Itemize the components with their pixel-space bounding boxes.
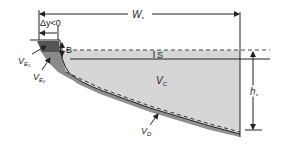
width-label: W* [132,9,144,22]
h-label: h* [250,86,259,99]
ve2-label: VE2 [33,72,46,84]
s-label: S [157,50,163,60]
region-vc [60,50,240,135]
ve2-leader [42,58,50,70]
diagram-canvas: W* Δy<0 B S h* VE1 VE2 VC VD [0,0,283,150]
b-label: B [66,45,72,55]
delta-y-label: Δy<0 [40,18,61,28]
ve1-label: VE1 [18,56,30,68]
vd-label: VD [141,126,152,137]
vd-leader [150,114,158,125]
